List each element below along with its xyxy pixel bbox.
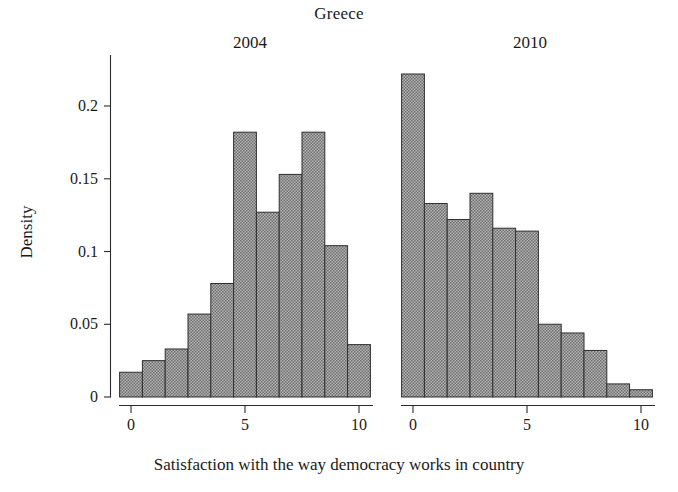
histogram-bar [424, 203, 447, 397]
histogram-bar [188, 314, 211, 397]
histogram-bar [561, 333, 584, 397]
histogram-bar [493, 228, 516, 397]
histogram-bar [630, 390, 653, 397]
y-tick-label: 0.05 [0, 316, 98, 332]
y-tick-label: 0 [0, 389, 98, 405]
histogram-bar [447, 219, 470, 397]
bar-series-2004 [120, 132, 371, 397]
histogram-bar [256, 212, 279, 397]
bar-series-2010 [402, 74, 653, 397]
histogram-bar [279, 174, 302, 397]
x-tick-label: 0 [393, 417, 433, 433]
y-tick-label: 0.15 [0, 171, 98, 187]
panel-label-2010: 2010 [450, 33, 610, 53]
panel-label-2004: 2004 [170, 33, 330, 53]
histogram-bar [516, 231, 539, 397]
y-tick-label: 0.1 [0, 244, 98, 260]
histogram-bar [234, 132, 257, 397]
histogram-bar [211, 284, 234, 397]
histogram-bar [470, 193, 493, 397]
histogram-figure: Greece 2004 2010 Density Satisfaction wi… [0, 0, 678, 492]
histogram-bar [165, 349, 188, 397]
x-tick-label: 5 [507, 417, 547, 433]
histogram-bar [120, 372, 143, 397]
x-tick-label: 5 [225, 417, 265, 433]
histogram-bar [584, 350, 607, 397]
histogram-bar [302, 132, 325, 397]
x-tick-label: 0 [111, 417, 151, 433]
histogram-bar [402, 74, 425, 397]
histogram-bar [607, 384, 630, 397]
x-axis-label: Satisfaction with the way democracy work… [0, 455, 678, 475]
x-tick-label: 10 [621, 417, 661, 433]
y-tick-label: 0.2 [0, 98, 98, 114]
chart-title: Greece [0, 4, 678, 24]
histogram-bar [142, 361, 165, 397]
histogram-bar [348, 345, 371, 397]
histogram-bar [325, 246, 348, 397]
x-tick-label: 10 [339, 417, 379, 433]
histogram-bar [538, 324, 561, 397]
